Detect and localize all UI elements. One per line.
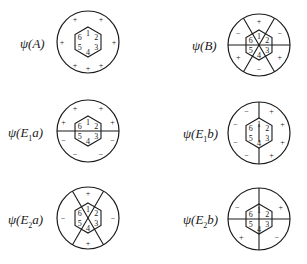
atom-number-4: 4	[257, 225, 261, 234]
atom-number-6: 6	[249, 124, 253, 133]
plus-sign: +	[112, 38, 117, 47]
atom-number-4: 4	[86, 224, 90, 233]
atom-number-3: 3	[265, 134, 269, 143]
panel-E2a-diagram: 123456+−+−	[57, 187, 119, 249]
atom-number-5: 5	[78, 132, 82, 141]
atom-number-2: 2	[265, 124, 269, 133]
atom-number-5: 5	[78, 43, 82, 52]
plus-sign: +	[239, 233, 244, 242]
plus-sign: +	[60, 38, 65, 47]
plus-sign: +	[86, 64, 91, 73]
atom-number-6: 6	[249, 36, 253, 45]
plus-sign: +	[236, 53, 241, 62]
minus-sign: −	[73, 150, 78, 159]
atom-number-1: 1	[86, 29, 90, 38]
panel-A-diagram: 123456+++++++	[57, 11, 119, 73]
atom-number-4: 4	[86, 48, 90, 57]
minus-sign: −	[61, 136, 66, 145]
minus-sign: −	[110, 136, 115, 145]
plus-sign: +	[269, 107, 274, 116]
minus-sign: −	[236, 29, 241, 38]
plus-sign: +	[280, 138, 285, 147]
plus-sign: +	[280, 120, 285, 129]
minus-sign: −	[99, 150, 104, 159]
minus-sign: −	[244, 151, 249, 160]
minus-sign: −	[278, 29, 283, 38]
panel-E1b-diagram: 123456−+−+−+−+	[228, 102, 290, 164]
atom-number-6: 6	[78, 209, 82, 218]
plus-sign: +	[269, 151, 274, 160]
atom-number-1: 1	[257, 206, 261, 215]
plus-sign: +	[61, 118, 66, 127]
plus-sign: +	[86, 189, 91, 198]
panel-B-diagram: 123456+−+−+−	[228, 14, 290, 76]
atom-number-2: 2	[265, 36, 269, 45]
atom-number-3: 3	[94, 219, 98, 228]
atom-number-1: 1	[86, 205, 90, 214]
orbital-diagrams: 123456+++++++123456+−+−+−123456++++−−−−1…	[0, 0, 307, 264]
plus-sign: +	[73, 15, 78, 24]
panel-E1a-diagram: 123456++++−−−−	[57, 100, 119, 162]
plus-sign: +	[99, 104, 104, 113]
atom-number-6: 6	[78, 122, 82, 131]
plus-sign: +	[73, 61, 78, 70]
atom-number-3: 3	[94, 132, 98, 141]
atom-number-6: 6	[249, 210, 253, 219]
atom-number-3: 3	[265, 220, 269, 229]
plus-sign: +	[278, 53, 283, 62]
atom-number-3: 3	[94, 43, 98, 52]
minus-sign: −	[233, 138, 238, 147]
plus-sign: +	[86, 239, 91, 248]
atom-number-5: 5	[249, 46, 253, 55]
plus-sign: +	[99, 61, 104, 70]
plus-sign: +	[278, 203, 283, 212]
atom-number-2: 2	[94, 122, 98, 131]
atom-number-3: 3	[265, 46, 269, 55]
atom-number-1: 1	[257, 32, 261, 41]
atom-number-4: 4	[257, 139, 261, 148]
atom-number-5: 5	[249, 220, 253, 229]
atom-number-5: 5	[249, 134, 253, 143]
minus-sign: −	[274, 233, 279, 242]
minus-sign: −	[61, 214, 66, 223]
plus-sign: +	[73, 104, 78, 113]
minus-sign: −	[257, 65, 262, 74]
plus-sign: +	[110, 118, 115, 127]
minus-sign: −	[111, 214, 116, 223]
minus-sign: −	[244, 107, 249, 116]
atom-number-4: 4	[257, 51, 261, 60]
atom-number-1: 1	[257, 120, 261, 129]
atom-number-2: 2	[94, 209, 98, 218]
plus-sign: +	[99, 15, 104, 24]
atom-number-2: 2	[265, 210, 269, 219]
atom-number-5: 5	[78, 219, 82, 228]
atom-number-4: 4	[86, 137, 90, 146]
panel-E2b-diagram: 123456−++−	[228, 188, 290, 250]
atom-number-1: 1	[86, 118, 90, 127]
atom-number-6: 6	[78, 33, 82, 42]
plus-sign: +	[257, 17, 262, 26]
minus-sign: −	[233, 120, 238, 129]
minus-sign: −	[235, 203, 240, 212]
atom-number-2: 2	[94, 33, 98, 42]
